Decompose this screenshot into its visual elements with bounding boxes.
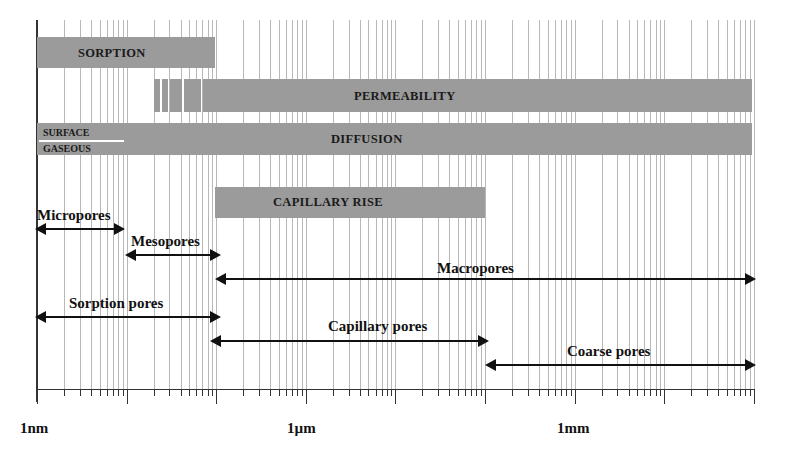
gridline [602,20,603,390]
minor-tick [644,389,645,396]
minor-tick [691,389,692,396]
minor-tick [107,389,108,396]
gridline [64,20,65,390]
minor-tick [189,389,190,396]
minor-tick [602,389,603,396]
gridline [718,20,719,390]
minor-tick [113,389,114,396]
gridline [113,20,114,390]
gridline [169,20,170,390]
capillary-pores-arrow [212,340,487,342]
gridline [555,20,556,390]
minor-tick [302,389,303,396]
gridline [154,20,155,390]
minor-tick [212,389,213,396]
minor-tick [243,389,244,396]
minor-tick [481,389,482,396]
minor-tick [528,389,529,396]
coarse-pores-label: Coarse pores [567,343,650,360]
gridline [123,20,124,390]
capillary-rise-label: CAPILLARY RISE [273,195,383,210]
gridline [561,20,562,390]
permeability-dash-2 [162,79,168,112]
macropores-arrow [217,278,754,280]
minor-tick [740,389,741,396]
minor-tick [382,389,383,396]
minor-tick [297,389,298,396]
minor-tick [100,389,101,396]
minor-tick [656,389,657,396]
minor-tick [707,389,708,396]
minor-tick [368,389,369,396]
minor-tick [548,389,549,396]
minor-tick [727,389,728,396]
permeability-dash-4 [184,79,201,112]
major-tick [754,389,755,404]
major-tick [664,389,665,404]
gridline [107,20,108,390]
minor-tick [196,389,197,396]
gridline [202,20,203,390]
permeability-dash-1 [154,79,160,112]
gridline [650,20,651,390]
gridline [637,20,638,390]
minor-tick [279,389,280,396]
minor-tick [208,389,209,396]
minor-tick [561,389,562,396]
permeability-label: PERMEABILITY [354,89,456,104]
gridline [740,20,741,390]
gridline [629,20,630,390]
minor-tick [270,389,271,396]
gridline [617,20,618,390]
capillary-pores-label: Capillary pores [328,318,427,335]
major-tick [37,389,38,404]
gridline [754,20,755,390]
minor-tick [512,389,513,396]
gridline [660,20,661,390]
pore-size-diagram: SORPTION PERMEABILITY SURFACE GASEOUS DI… [0,0,787,465]
minor-tick [202,389,203,396]
gridline [189,20,190,390]
gridline [571,20,572,390]
minor-tick [259,389,260,396]
gridline [91,20,92,390]
gridline [656,20,657,390]
permeability-dash-3 [170,79,182,112]
coarse-pores-arrow [487,364,754,366]
mesopores-arrow [127,254,219,256]
minor-tick [360,389,361,396]
minor-tick [449,389,450,396]
minor-tick [376,389,377,396]
major-tick [216,389,217,404]
minor-tick [539,389,540,396]
surface-label: SURFACE [43,127,89,138]
minor-tick [123,389,124,396]
sorption-label: SORPTION [78,46,146,61]
gridline [691,20,692,390]
minor-tick [745,389,746,396]
mesopores-label: Mesopores [131,233,200,250]
permeability-bar [203,79,752,112]
gridline [208,20,209,390]
gridline [512,20,513,390]
minor-tick [660,389,661,396]
gridline [196,20,197,390]
minor-tick [566,389,567,396]
minor-tick [286,389,287,396]
micropores-arrow [37,228,123,230]
minor-tick [471,389,472,396]
sorption-pores-arrow [37,316,219,318]
minor-tick [91,389,92,396]
minor-tick [118,389,119,396]
major-tick [306,389,307,404]
minor-tick [154,389,155,396]
minor-tick [349,389,350,396]
minor-tick [169,389,170,396]
surface-gaseous-divider [39,140,124,142]
gridline [575,20,576,390]
minor-tick [637,389,638,396]
gridline [727,20,728,390]
minor-tick [465,389,466,396]
minor-tick [438,389,439,396]
gridline [566,20,567,390]
